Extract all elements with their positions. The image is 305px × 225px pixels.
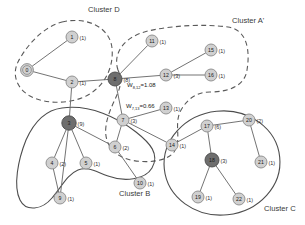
- node-count-label: (2): [122, 145, 129, 151]
- graph-node-20[interactable]: 20(2): [243, 114, 263, 126]
- graph-diagram: 01(1)2(1)3(9)4(2)5(1)6(2)7(3)8(8)9(1)10(…: [0, 0, 305, 225]
- node-id-label: 9: [59, 195, 62, 201]
- node-count-label: (1): [147, 181, 154, 187]
- graph-edge: [216, 166, 236, 194]
- node-id-label: 22: [236, 196, 242, 202]
- graph-node-0[interactable]: 0: [21, 64, 34, 77]
- graph-node-14[interactable]: 14(1): [166, 139, 186, 151]
- graph-edge: [72, 130, 84, 158]
- graph-node-5[interactable]: 5(1): [80, 157, 100, 169]
- node-count-label: (2): [59, 161, 66, 167]
- node-id-label: 17: [204, 123, 210, 129]
- graph-node-18[interactable]: 18(3): [205, 153, 227, 167]
- graph-node-3[interactable]: 3(9): [62, 116, 85, 130]
- graph-edge: [171, 53, 206, 72]
- node-id-label: 0: [26, 67, 29, 73]
- graph-edge: [33, 72, 66, 81]
- graph-node-12[interactable]: 12(3): [160, 69, 180, 81]
- node-count-label: (9): [78, 121, 85, 127]
- node-id-label: 4: [51, 160, 54, 166]
- node-count-label: (2): [256, 118, 263, 124]
- graph-node-19[interactable]: 19(1): [192, 191, 212, 203]
- node-id-label: 6: [114, 144, 117, 150]
- node-id-label: 18: [209, 157, 215, 163]
- graph-node-22[interactable]: 22(1): [233, 193, 253, 205]
- graph-node-11[interactable]: 11(1): [146, 35, 166, 47]
- node-count-label: (1): [218, 73, 225, 79]
- node-id-label: 13: [163, 105, 169, 111]
- node-id-label: 11: [149, 38, 154, 44]
- graph-edge: [200, 167, 209, 192]
- node-id-label: 12: [163, 72, 169, 78]
- graph-edge: [177, 129, 201, 142]
- figure-canvas: 01(1)2(1)3(9)4(2)5(1)6(2)7(3)8(8)9(1)10(…: [0, 0, 305, 225]
- node-id-label: 16: [208, 72, 214, 78]
- node-id-label: 21: [258, 159, 264, 165]
- node-count-label: (1): [173, 106, 180, 112]
- graph-node-17[interactable]: 17(6): [201, 120, 221, 132]
- node-count-label: (1): [93, 161, 100, 167]
- node-id-label: 15: [208, 47, 214, 53]
- graph-edge: [32, 41, 67, 67]
- node-count-label: (6): [214, 124, 221, 130]
- cluster-boundary-D: [15, 20, 112, 102]
- graph-node-2[interactable]: 2(1): [66, 76, 86, 88]
- node-count-label: (3): [130, 118, 137, 124]
- cluster-label-layer: Cluster DCluster A'Cluster BCluster C: [88, 5, 296, 213]
- node-id-label: 7: [122, 117, 125, 123]
- graph-edge: [120, 45, 148, 74]
- node-count-label: (3): [220, 158, 227, 164]
- graph-node-9[interactable]: 9(1): [54, 192, 74, 204]
- cluster-label-C: Cluster C: [264, 204, 296, 213]
- node-id-label: 14: [169, 142, 175, 148]
- graph-node-6[interactable]: 6(2): [109, 141, 129, 153]
- cluster-label-D: Cluster D: [88, 5, 120, 14]
- graph-node-21[interactable]: 21(1): [255, 156, 275, 168]
- graph-edge: [70, 88, 72, 116]
- graph-node-1[interactable]: 1(1): [66, 31, 86, 43]
- node-count-label: (1): [79, 35, 86, 41]
- edge-weight-layer: W8,12=1.08W7,13=0.66: [126, 82, 156, 111]
- node-id-label: 3: [68, 120, 71, 126]
- node-id-label: 2: [71, 79, 74, 85]
- graph-node-16[interactable]: 16(1): [205, 69, 225, 81]
- graph-node-4[interactable]: 4(2): [46, 157, 66, 169]
- edge-weight-w-8-12: W8,12=1.08: [127, 82, 156, 90]
- node-id-label: 20: [246, 117, 252, 123]
- node-count-label: (1): [179, 143, 186, 149]
- node-id-label: 1: [71, 34, 74, 40]
- graph-edge: [128, 123, 166, 143]
- graph-edge: [53, 169, 58, 192]
- graph-node-13[interactable]: 13(1): [160, 102, 180, 114]
- node-count-label: (1): [159, 39, 166, 45]
- graph-edge: [208, 132, 211, 153]
- graph-edge: [75, 126, 109, 144]
- node-count-label: (1): [67, 196, 74, 202]
- node-count-label: (3): [173, 73, 180, 79]
- node-id-label: 10: [137, 180, 143, 186]
- node-count-label: (1): [79, 80, 86, 86]
- node-count-label: (1): [218, 48, 225, 54]
- cluster-label-A1: Cluster A': [232, 16, 265, 25]
- node-layer: 01(1)2(1)3(9)4(2)5(1)6(2)7(3)8(8)9(1)10(…: [21, 31, 276, 205]
- node-count-label: (1): [205, 195, 212, 201]
- node-count-label: (1): [246, 197, 253, 203]
- graph-edge: [117, 126, 122, 141]
- graph-edge: [251, 126, 260, 156]
- graph-edge: [118, 152, 136, 178]
- graph-edge: [54, 130, 66, 158]
- node-count-label: (1): [268, 160, 275, 166]
- node-id-label: 8: [114, 76, 117, 82]
- cluster-label-B: Cluster B: [119, 189, 150, 198]
- edge-weight-w-7-13: W7,13=0.66: [126, 103, 155, 111]
- graph-node-15[interactable]: 15(1): [205, 44, 225, 56]
- node-id-label: 5: [85, 160, 88, 166]
- graph-node-7[interactable]: 7(3): [117, 114, 137, 126]
- node-id-label: 19: [195, 194, 201, 200]
- graph-edge: [129, 110, 160, 119]
- graph-node-10[interactable]: 10(1): [134, 177, 154, 189]
